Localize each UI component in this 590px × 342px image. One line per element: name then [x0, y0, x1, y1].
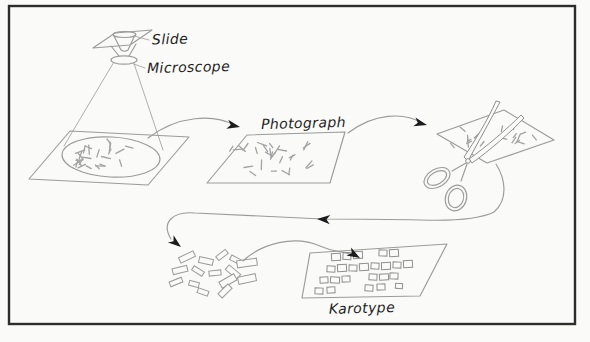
chromosome-mark: [230, 146, 233, 151]
diagram-art: [0, 0, 590, 342]
karotype-chromosome: [327, 266, 335, 272]
specimen-chromosomes: [74, 139, 133, 169]
chromosome-mark: [97, 150, 99, 158]
karotype-chromosome: [359, 263, 368, 271]
scissors-handle-loop-left: [420, 163, 453, 193]
chromosome-mark: [250, 171, 256, 175]
scissors-handle-loop-left-inner: [425, 168, 449, 189]
karotype-chromosome: [381, 262, 390, 269]
slide-plate: [93, 30, 152, 48]
karotype-chromosome: [390, 273, 398, 279]
frame-border: [9, 6, 575, 324]
cut-chromosome-piece: [192, 266, 205, 277]
chromosome-mark: [518, 134, 521, 140]
chromosome-mark: [460, 127, 465, 131]
microscope-leader-line: [131, 63, 145, 68]
cut-chromosome-piece: [197, 288, 209, 296]
photograph-group: [207, 132, 345, 183]
karotype-chromosome: [331, 253, 340, 261]
chromosome-mark: [278, 149, 287, 151]
karotype-chromosome: [315, 288, 323, 294]
chromosome-mark: [512, 137, 516, 143]
photograph-label: Photograph: [261, 115, 346, 133]
chromosome-mark: [102, 157, 111, 159]
chromosome-mark: [116, 149, 124, 153]
specimen-field: [61, 134, 161, 179]
chromosome-mark: [256, 148, 258, 154]
cut-chromosome-piece: [169, 277, 183, 287]
arrow-curve-to-scissors: [348, 116, 422, 133]
lens: [111, 56, 137, 64]
chromosome-mark: [258, 143, 267, 146]
chromosome-mark: [270, 144, 273, 148]
karotype-chromosome-grid: [315, 249, 413, 294]
karotype-chromosome: [365, 285, 373, 291]
chromosome-mark: [84, 146, 86, 153]
microscope-group: [29, 30, 189, 185]
cut-chromosome-piece: [172, 265, 188, 274]
chromosome-mark: [86, 166, 91, 169]
karotype-chromosome: [377, 284, 385, 290]
chromosome-mark: [521, 132, 526, 134]
cut-chromosome-piece: [209, 270, 221, 276]
cut-chromosome-piece: [199, 257, 214, 266]
karotype-chromosome: [393, 262, 401, 268]
karotype-chromosome: [389, 249, 398, 256]
chromosome-mark: [517, 141, 524, 144]
cut-pieces-group: [169, 249, 257, 298]
cut-chromosome-piece: [178, 251, 195, 263]
chromosome-mark: [280, 157, 283, 163]
karotype-chromosome: [395, 283, 402, 288]
karotype-chromosome: [379, 250, 387, 256]
karotype-chromosome: [327, 287, 335, 293]
cut-chromosome-piece: [216, 249, 229, 260]
karotype-chromosome: [379, 274, 388, 280]
karotype-chromosome: [369, 274, 377, 280]
chromosome-mark: [501, 126, 502, 132]
photograph-sheet: [207, 132, 345, 183]
karotype-chromosome: [320, 277, 328, 283]
chromosome-mark: [244, 166, 253, 167]
scissors-group: [420, 101, 554, 214]
karotype-chromosome: [349, 265, 357, 271]
karotype-chromosome: [330, 277, 339, 283]
karotype-chromosome: [403, 260, 412, 267]
karotype-sheet: [302, 244, 447, 298]
chromosome-mark: [532, 135, 536, 140]
return-flow-curve: [167, 164, 504, 239]
karotype-chromosome: [337, 264, 346, 271]
chromosome-mark: [89, 145, 90, 154]
flow-arrowheads: [168, 117, 428, 262]
slide-label: Slide: [152, 32, 189, 48]
diagram-canvas: Slide Microscope Photograph Karotype: [0, 0, 590, 342]
microscope-label: Microscope: [147, 59, 230, 77]
scissors-handle-loop-right: [442, 182, 470, 213]
karotype-label: Karotype: [329, 300, 395, 317]
karotype-chromosome: [342, 276, 350, 282]
arrowhead-icon: [226, 120, 241, 132]
chromosome-mark: [233, 149, 242, 150]
photograph-chromosomes: [230, 142, 314, 176]
chromosome-mark: [120, 160, 122, 167]
cut-chromosome-piece: [189, 280, 200, 287]
chromosome-mark: [126, 146, 133, 148]
karotype-chromosome: [371, 263, 379, 269]
chromosome-mark: [82, 157, 91, 158]
cut-photograph-sheet: [437, 110, 554, 163]
scissors-handle-stems: [452, 163, 467, 181]
chromosome-mark: [480, 142, 484, 147]
karotype-group: [302, 244, 447, 298]
scissors-pivot-screw: [466, 159, 471, 164]
chromosome-mark: [289, 168, 290, 174]
